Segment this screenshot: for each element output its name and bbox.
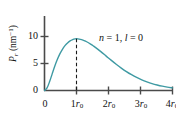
- x-tick-label-2r0: 2r0: [98, 99, 120, 110]
- x-tick-label-1r0: 1r0: [66, 99, 88, 110]
- y-axis-units-open: (nm: [8, 36, 18, 51]
- x-tick-label-0: 0: [36, 99, 54, 109]
- data-curve-radial-probability: [45, 39, 173, 91]
- y-tick-label-0: 0: [18, 85, 38, 95]
- annotation-l-value: = 0: [127, 32, 143, 43]
- figure-container: the Bohr radius Pr (nm−1) 10 5 0 0: [0, 0, 176, 119]
- axes-group: [44, 16, 173, 91]
- y-axis-symbol: P: [8, 56, 18, 62]
- y-tick-label-10: 10: [18, 31, 38, 41]
- y-axis-units-exponent: −1: [7, 28, 15, 35]
- y-axis-units-close: ): [8, 25, 18, 28]
- quantum-numbers-annotation: n = 1, l = 0: [99, 33, 143, 43]
- x-tick-label-4r0: 4r0: [161, 99, 176, 110]
- y-axis-subscript: r: [12, 53, 20, 56]
- annotation-n-value: = 1,: [104, 32, 125, 43]
- y-tick-label-5: 5: [18, 58, 38, 68]
- x-tick-label-3r0: 3r0: [130, 99, 152, 110]
